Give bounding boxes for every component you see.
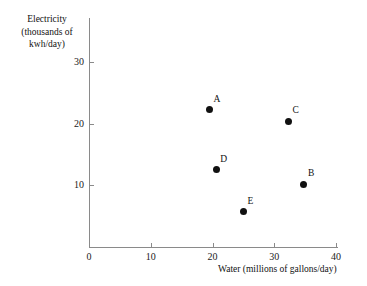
data-point-marker-C: [285, 118, 292, 125]
x-tick-label-10: 10: [138, 251, 164, 262]
data-point-label-B: B: [308, 168, 314, 178]
x-tick-label-40: 40: [323, 251, 349, 262]
y-tick-10: [89, 185, 94, 186]
x-axis-title: Water (millions of gallons/day): [218, 264, 337, 274]
y-tick-label-30: 30: [58, 56, 84, 67]
x-tick-40: [336, 243, 337, 248]
data-point-label-A: A: [213, 94, 220, 104]
x-tick-label-30: 30: [261, 251, 287, 262]
x-tick-10: [151, 243, 152, 248]
data-point-label-C: C: [292, 105, 298, 115]
data-point-marker-E: [240, 208, 247, 215]
x-tick-label-0: 0: [76, 251, 102, 262]
data-point-marker-D: [213, 166, 220, 173]
y-axis-line: [89, 18, 90, 248]
data-point-label-E: E: [247, 196, 253, 206]
x-tick-30: [274, 243, 275, 248]
x-tick-label-20: 20: [200, 251, 226, 262]
y-tick-label-20: 20: [58, 118, 84, 129]
y-axis-title-line-2: (thousands of: [8, 26, 86, 39]
x-tick-20: [213, 243, 214, 248]
y-tick-20: [89, 124, 94, 125]
data-point-label-D: D: [220, 154, 227, 164]
data-point-marker-A: [206, 106, 213, 113]
y-tick-label-10: 10: [58, 179, 84, 190]
y-axis-title: Electricity (thousands of kwh/day): [8, 13, 86, 51]
y-tick-30: [89, 62, 94, 63]
y-axis-title-line-1: Electricity: [8, 13, 86, 26]
y-axis-title-line-3: kwh/day): [8, 38, 86, 51]
x-axis-line: [89, 247, 338, 248]
scatter-plot: Electricity (thousands of kwh/day) 10203…: [0, 0, 367, 286]
top-edge-text-artifact: [6, 0, 126, 5]
data-point-marker-B: [300, 181, 307, 188]
